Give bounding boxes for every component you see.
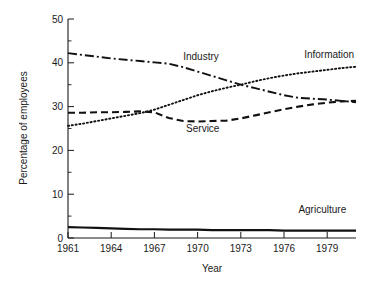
y-tick-label: 0 bbox=[57, 233, 63, 244]
y-tick-label: 50 bbox=[52, 14, 64, 25]
x-axis-title: Year bbox=[202, 263, 223, 274]
x-tick-label: 1970 bbox=[186, 243, 209, 254]
industry-label: Industry bbox=[183, 51, 219, 62]
x-tick-label: 1979 bbox=[316, 243, 339, 254]
x-tick-label: 1961 bbox=[57, 243, 80, 254]
series-line-agriculture bbox=[68, 227, 356, 231]
y-axis-tick-labels: 01020304050 bbox=[52, 14, 64, 244]
chart-canvas: 01020304050 1961196419671970197319761979… bbox=[0, 0, 390, 281]
x-tick-label: 1973 bbox=[230, 243, 253, 254]
x-tick-label: 1976 bbox=[273, 243, 296, 254]
series-line-information bbox=[68, 67, 356, 126]
employment-share-line-chart: 01020304050 1961196419671970197319761979… bbox=[0, 0, 390, 281]
agriculture-label: Agriculture bbox=[298, 204, 346, 215]
y-axis-title: Percentage of employees bbox=[18, 71, 29, 184]
x-axis-ticks bbox=[68, 232, 327, 238]
y-tick-label: 10 bbox=[52, 189, 64, 200]
information-label: Information bbox=[304, 49, 354, 60]
x-axis-tick-labels: 1961196419671970197319761979 bbox=[57, 243, 339, 254]
y-tick-label: 30 bbox=[52, 101, 64, 112]
series-inline-labels: IndustryInformationServiceAgriculture bbox=[183, 49, 354, 216]
service-label: Service bbox=[186, 123, 220, 134]
y-tick-label: 20 bbox=[52, 145, 64, 156]
x-tick-label: 1967 bbox=[143, 243, 166, 254]
y-axis-ticks bbox=[68, 19, 74, 238]
x-tick-label: 1964 bbox=[100, 243, 123, 254]
y-tick-label: 40 bbox=[52, 57, 64, 68]
